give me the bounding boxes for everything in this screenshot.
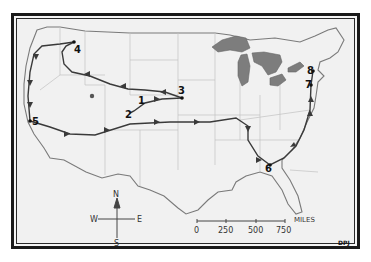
scale-unit: MILES xyxy=(294,216,315,224)
compass-e: E xyxy=(137,215,142,224)
scale-tick-250: 250 xyxy=(218,226,233,235)
stop-label-4: 4 xyxy=(74,44,81,55)
stop-label-7: 7 xyxy=(305,79,312,90)
compass-w: W xyxy=(90,215,98,224)
stop-label-2: 2 xyxy=(125,109,132,120)
scale-bar xyxy=(197,219,285,223)
stop-label-1: 1 xyxy=(138,95,145,106)
stop-label-6: 6 xyxy=(265,163,272,174)
scale-tick-500: 500 xyxy=(248,226,263,235)
great-lakes xyxy=(212,36,304,86)
scale-tick-0: 0 xyxy=(194,226,199,235)
stop-label-8: 8 xyxy=(307,65,314,76)
stop-label-5: 5 xyxy=(32,116,39,127)
compass-s: S xyxy=(114,239,119,248)
signature: DPJ xyxy=(338,239,350,247)
compass-n: N xyxy=(113,190,119,199)
us-route-map: 1 2 3 4 5 6 7 8 N S W E 0 250 500 750 MI… xyxy=(0,0,371,262)
compass-rose xyxy=(98,198,135,238)
stop-label-3: 3 xyxy=(178,85,185,96)
scale-tick-750: 750 xyxy=(276,226,291,235)
us-outline xyxy=(24,27,344,214)
